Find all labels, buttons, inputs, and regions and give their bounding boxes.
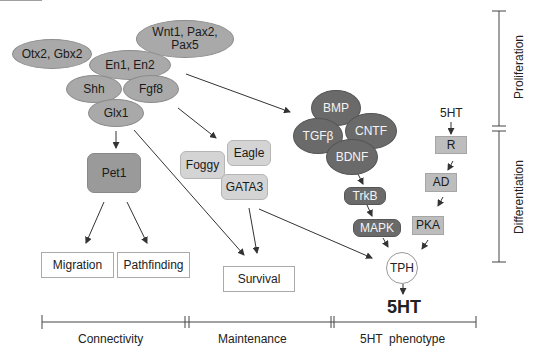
arrow-trkb-to-mapk (367, 205, 372, 216)
5ht-output-label: 5HT (387, 297, 421, 318)
otx2-gbx2-label: Otx2, Gbx2 (22, 48, 83, 61)
bdnf-label: BDNF (336, 151, 369, 164)
fgf8-node: Fgf8 (123, 75, 179, 103)
arrow-ad-to-pka (438, 197, 443, 206)
trkb-label: TrkB (353, 190, 378, 203)
survival-label: Survival (238, 273, 281, 286)
en1-en2-label: En1, En2 (105, 59, 154, 72)
tph-node: TPH (386, 252, 418, 284)
pet1-node: Pet1 (87, 153, 141, 193)
pet1-label: Pet1 (102, 167, 127, 180)
5ht-input-label: 5HT (440, 106, 463, 120)
bdnf-node: BDNF (326, 139, 378, 175)
mapk-node: MAPK (353, 219, 401, 237)
ad-node: AD (425, 173, 457, 192)
arrow-fgf8-to-eagle (178, 108, 216, 138)
pka-node: PKA (412, 216, 444, 235)
survival-box: Survival (223, 266, 295, 292)
mapk-label: MAPK (360, 222, 394, 235)
glx1-node: Glx1 (88, 99, 144, 127)
arrow-pet1-to-pathfinding (127, 202, 147, 243)
eagle-node: Eagle (227, 140, 271, 166)
otx2-gbx2-node: Otx2, Gbx2 (12, 39, 92, 69)
fgf8-label: Fgf8 (139, 83, 163, 96)
pathfinding-box: Pathfinding (117, 252, 190, 278)
arrow-pka-to-tph (422, 240, 428, 249)
arrow-pet1-to-migration (86, 202, 104, 243)
wnt1-pax2-pax5-label: Wnt1, Pax2, Pax5 (151, 26, 219, 52)
r-node: R (435, 136, 467, 154)
trkb-node: TrkB (344, 187, 386, 205)
eagle-label: Eagle (234, 147, 265, 160)
tph-label: TPH (390, 262, 414, 275)
arrow-mapk-to-tph (383, 238, 388, 247)
tgfb-label: TGFβ (303, 130, 334, 143)
gata3-label: GATA3 (226, 181, 264, 194)
gata3-node: GATA3 (221, 174, 268, 200)
arrow-bdnf-to-trkb (358, 174, 363, 184)
pka-label: PKA (416, 219, 440, 232)
ad-label: AD (433, 176, 450, 189)
bmp-label: BMP (323, 102, 349, 115)
arrow-gata3-to-survival (249, 208, 257, 253)
pathfinding-label: Pathfinding (123, 259, 183, 272)
maintenance-label: Maintenance (218, 332, 287, 346)
foggy-label: Foggy (186, 159, 219, 172)
stage-axis (492, 11, 506, 262)
connectivity-label: Connectivity (78, 332, 143, 346)
r-label: R (447, 139, 456, 152)
differentiation-label: Differentiation (512, 147, 526, 247)
5ht-phenotype-label: 5HT phenotype (360, 332, 445, 346)
shh-label: Shh (83, 83, 104, 96)
migration-label: Migration (53, 259, 102, 272)
migration-box: Migration (41, 252, 114, 278)
arrow-r-to-ad (448, 161, 453, 170)
glx1-label: Glx1 (104, 107, 129, 120)
cntf-label: CNTF (355, 125, 387, 138)
proliferation-label: Proliferation (512, 22, 526, 112)
arrow-en-to-bmp (186, 74, 290, 112)
foggy-node: Foggy (180, 151, 225, 179)
